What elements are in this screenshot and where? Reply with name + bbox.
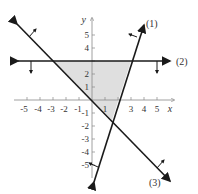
svg-text:5: 5	[85, 30, 90, 40]
svg-text:-3: -3	[47, 104, 55, 114]
svg-text:-5: -5	[20, 104, 28, 114]
shade-arrow-icon	[29, 29, 36, 37]
svg-text:4: 4	[85, 43, 90, 53]
shade-arrow-icon	[157, 160, 164, 168]
svg-text:2: 2	[85, 69, 90, 79]
shade-arrow-icon	[89, 163, 98, 167]
line-2-label: (2)	[176, 56, 188, 68]
line-1-label: (1)	[146, 18, 158, 30]
svg-text:5: 5	[155, 104, 160, 114]
svg-text:-3: -3	[82, 134, 90, 144]
svg-text:-4: -4	[82, 147, 90, 157]
y-axis-label: y	[81, 14, 87, 25]
svg-text:-5: -5	[82, 160, 90, 170]
svg-text:-1: -1	[82, 108, 90, 118]
inequality-graph: -5 -4 -3 -2 -1 1 3 4 5 x y 5 4 2 1 -1 -2…	[0, 0, 198, 194]
line-3-label: (3)	[149, 177, 161, 189]
svg-text:4: 4	[142, 104, 147, 114]
svg-text:-4: -4	[34, 104, 42, 114]
svg-text:1: 1	[85, 82, 90, 92]
svg-text:-2: -2	[82, 121, 90, 131]
x-axis-label: x	[167, 103, 173, 114]
svg-text:-2: -2	[60, 104, 68, 114]
shade-arrow-icon	[129, 34, 137, 37]
svg-text:3: 3	[129, 104, 134, 114]
